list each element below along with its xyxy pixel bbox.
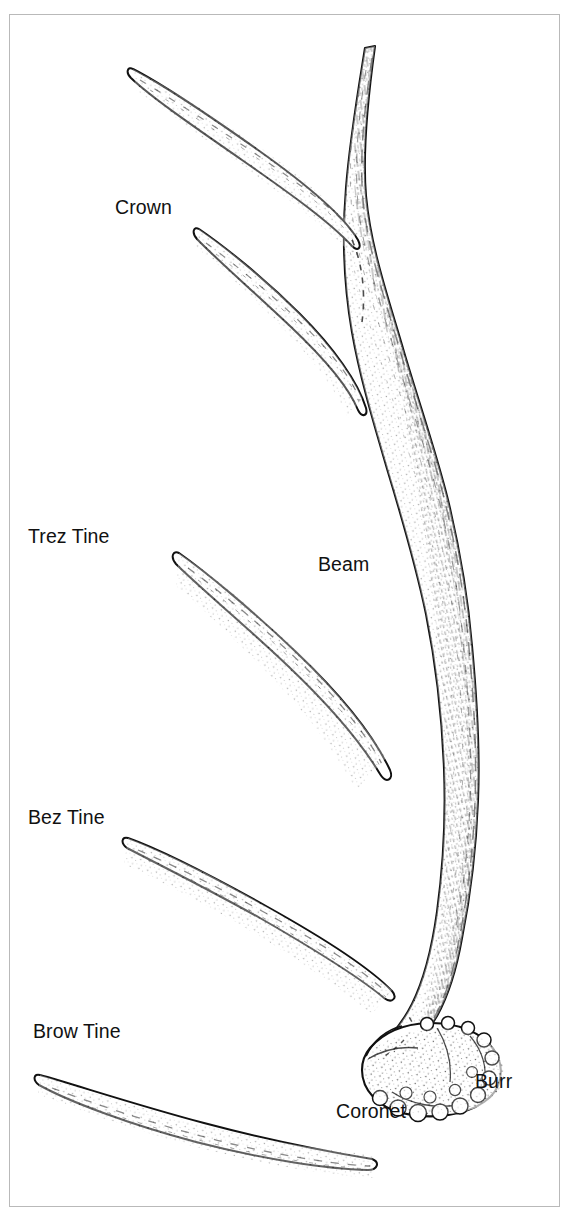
label-bez-tine: Bez Tine (28, 808, 105, 828)
label-beam: Beam (318, 555, 369, 575)
antler-drawing (30, 40, 515, 1188)
label-brow-tine: Brow Tine (33, 1022, 121, 1042)
trez-junction-shading (384, 690, 434, 842)
figure-root: Crown Trez Tine Beam Bez Tine Brow Tine … (0, 0, 574, 1219)
crown-upper-tine (120, 60, 370, 260)
label-trez-tine: Trez Tine (28, 527, 109, 547)
brow-tine (30, 1068, 390, 1188)
label-coronet: Coronet (336, 1102, 406, 1122)
trez-tine (170, 545, 410, 805)
label-crown: Crown (115, 198, 172, 218)
label-burr: Burr (475, 1072, 512, 1092)
bez-tine (118, 830, 408, 1030)
